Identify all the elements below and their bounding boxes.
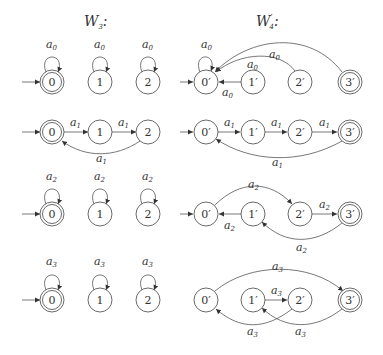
state-label: 0′: [201, 294, 211, 307]
state-label: 2: [145, 76, 152, 89]
edge-label: a2: [248, 178, 260, 192]
state-label: 2: [145, 126, 152, 139]
title-w4-prime: W′4:: [256, 13, 279, 31]
edge-label: a1: [70, 116, 81, 130]
state-label: 2: [145, 208, 152, 221]
state-label: 1′: [248, 208, 258, 221]
row-a2-right: a2 a2 a2 a2 0′ 1′ 2′ 3′: [180, 178, 362, 255]
state-label: 2′: [295, 294, 305, 307]
state-label: 2′: [295, 126, 305, 139]
edge-label: a0: [142, 38, 154, 52]
state-label: 2′: [295, 76, 305, 89]
state-label: 3′: [345, 294, 355, 307]
state-label: 3′: [345, 76, 355, 89]
row-a0-left: a0 a0 a0 0 1 2: [22, 38, 160, 94]
edge-label: a3: [94, 255, 106, 269]
edge-label: a3: [272, 260, 284, 274]
edge-label: a3: [247, 325, 259, 339]
state-label: 0: [49, 126, 56, 139]
state-label: 1: [97, 294, 104, 307]
state-label: 0: [49, 208, 56, 221]
state-label: 0′: [201, 126, 211, 139]
state-label: 3′: [345, 208, 355, 221]
automata-diagram: W3: W′4: a0 a0 a0 0 1 2 a0 a0 a0 a0 0′ 1…: [0, 0, 383, 355]
edge-label: a1: [118, 116, 129, 130]
state-label: 3′: [345, 126, 355, 139]
state-label: 0′: [201, 208, 211, 221]
state-label: 2′: [295, 208, 305, 221]
edge-label: a3: [271, 284, 283, 298]
edge-label: a1: [272, 156, 283, 170]
row-a3-right: a3 a3 a3 a3 0′ 1′ 2′ 3′: [194, 260, 362, 339]
edge-label: a3: [295, 325, 307, 339]
edge-label: a3: [142, 255, 154, 269]
edge-label: a2: [296, 241, 308, 255]
title-w3: W3:: [84, 13, 108, 31]
row-a2-left: a2 a2 a2 0 1 2: [22, 170, 160, 226]
edge-label: a3: [46, 255, 58, 269]
state-label: 1: [97, 76, 104, 89]
edge-label: a0: [94, 38, 106, 52]
state-label: 1′: [248, 294, 258, 307]
row-a1-left: a1 a1 a1 0 1 2: [22, 116, 160, 166]
row-a1-right: a1 a1 a1 a1 0′ 1′ 2′ 3′: [180, 116, 362, 170]
edge-label: a2: [319, 198, 331, 212]
edge-label: a1: [224, 116, 235, 130]
state-label: 0: [49, 294, 56, 307]
state-label: 1: [97, 126, 104, 139]
edge-label: a0: [46, 38, 58, 52]
edge-label: a1: [271, 116, 282, 130]
edge-label: a2: [94, 170, 106, 184]
edge-label: a2: [142, 170, 154, 184]
edge-label: a0: [269, 48, 281, 62]
row-a3-left: a3 a3 a3 0 1 2: [22, 255, 160, 312]
state-label: 0: [49, 76, 56, 89]
state-label: 1′: [248, 126, 258, 139]
edge-label: a0: [201, 38, 213, 52]
edge-label: a1: [96, 152, 107, 166]
state-label: 0′: [201, 76, 211, 89]
row-a0-right: a0 a0 a0 a0 0′ 1′ 2′ 3′: [180, 38, 362, 100]
state-label: 2: [145, 294, 152, 307]
state-label: 1: [97, 208, 104, 221]
edge-label: a2: [46, 170, 58, 184]
edge-label: a1: [319, 116, 330, 130]
edge-label: a2: [224, 219, 236, 233]
edge-label: a0: [222, 86, 234, 100]
edge-3p-0p: [216, 139, 342, 158]
state-label: 1′: [248, 76, 258, 89]
